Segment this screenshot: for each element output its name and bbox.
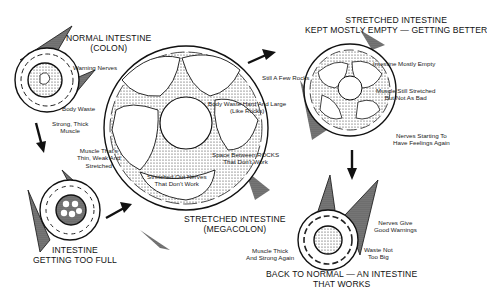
label-warning-nerves: Warning Nerves — [73, 64, 117, 71]
stage-title-getting-better: STRETCHED INTESTINEKEPT MOSTLY EMPTY — G… — [305, 16, 487, 36]
too-full-intestine-figure — [28, 170, 100, 252]
label-nerves-give-warnings: Nerves GiveGood Warnings — [374, 219, 417, 234]
label-muscle-still-stretched: Muscle Still StretchedBut Not As Bad — [376, 87, 436, 102]
stage-title-too-full: INTESTINEGETTING TOO FULL — [33, 246, 117, 266]
label-body-waste: Body Waste — [62, 105, 95, 112]
label-intestine-mostly-empty: Intestine Mostly Empty — [373, 60, 435, 67]
label-strong-thick-muscle: Strong, ThickMuscle — [52, 120, 88, 135]
arrow-up-right-icon — [248, 49, 276, 63]
arrow-down-icon — [36, 123, 46, 153]
label-space-between-rocks: Space Between ROCKSThat Don't Work — [212, 151, 279, 166]
label-muscle-thin-weak: Muscle That'sThin, Weak AndStretched — [77, 147, 121, 169]
getting-better-figure — [300, 30, 396, 140]
label-still-a-few-rocks: Still A Few Rocks — [262, 74, 309, 81]
label-waste-not-too-big: Waste NotToo Big — [364, 246, 393, 261]
label-nerves-starting: Nerves Starting ToHave Feelings Again — [393, 132, 450, 147]
stage-title-normal: NORMAL INTESTINE(COLON) — [66, 34, 151, 54]
label-stretched-out-nerves: Stretched Out NervesThat Don't Work — [147, 173, 207, 188]
stage-title-back-to-normal: BACK TO NORMAL — AN INTESTINETHAT WORKS — [266, 270, 417, 290]
arrow-up-right-icon — [106, 202, 132, 218]
arrow-down-icon — [347, 150, 357, 180]
label-body-waste-hard: Body Waste Hard And Large(Like Rocks) — [208, 100, 286, 115]
label-muscle-thick-strong: Muscle ThickAnd Strong Again — [246, 247, 294, 262]
stage-title-megacolon: STRETCHED INTESTINE(MEGACOLON) — [184, 215, 286, 235]
